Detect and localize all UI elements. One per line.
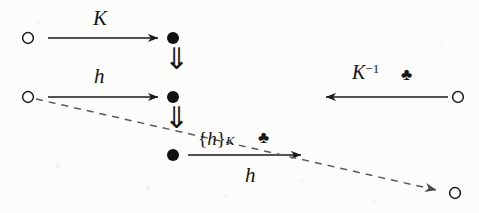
node-middle-left-circle [23, 92, 34, 103]
label-row2-h: h [94, 66, 105, 87]
double-arrow-down-bottom-icon: ⇓ [164, 103, 189, 133]
arrow-diagonal-dashed [36, 99, 436, 190]
label-row2-k-inverse: K−1 [352, 62, 379, 82]
diagram-vector-layer: filled dot --> filled dot --> --> [0, 0, 479, 213]
label-brace-h: h [207, 128, 217, 149]
label-k-inverse-base: K [352, 61, 365, 83]
node-bottom-right-circle [450, 188, 461, 199]
node-bottom-center-dot [167, 149, 179, 161]
club-suit-icon-bottom: ♣ [258, 129, 269, 146]
node-middle-right-circle [453, 92, 464, 103]
label-row3-below-h: h [245, 165, 256, 186]
double-arrow-down-top-icon: ⇓ [164, 44, 189, 74]
label-row3-above: {h}K [198, 129, 234, 148]
diagram-canvas: filled dot --> filled dot --> --> ⇓ ⇓ K … [0, 0, 479, 213]
label-brace-close: } [217, 128, 226, 149]
label-brace-subscript: K [226, 133, 235, 148]
club-suit-icon-right: ♣ [401, 66, 412, 83]
node-top-left-circle [23, 33, 34, 44]
label-row1-K: K [93, 8, 107, 29]
label-k-inverse-exponent: −1 [365, 61, 379, 76]
label-brace-open: { [198, 128, 207, 149]
